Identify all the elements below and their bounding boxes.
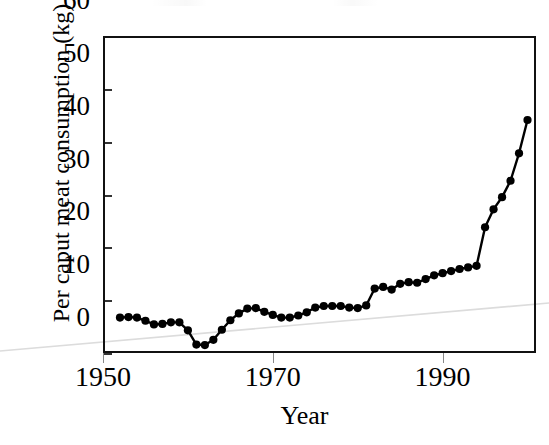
data-point-marker — [294, 311, 302, 319]
data-point-marker — [515, 149, 523, 157]
data-point-marker — [523, 116, 531, 124]
data-point-marker — [175, 318, 183, 326]
data-point-marker — [226, 316, 234, 324]
data-point-marker — [235, 309, 243, 317]
y-tick-label-text: 40 — [63, 92, 90, 120]
data-point-marker — [388, 286, 396, 294]
y-axis-tick-labels: 6050403020100 — [30, 0, 96, 317]
data-point-marker — [506, 177, 514, 185]
x-tick-label: 1950 — [75, 362, 131, 392]
data-point-marker — [371, 284, 379, 292]
y-tick-label-text: 30 — [63, 145, 90, 173]
data-point-marker — [243, 305, 251, 313]
y-axis-title-holder: Per caput meat consumption (kg) — [0, 0, 34, 400]
clipped-title-artifact — [150, 0, 410, 6]
data-point-marker — [150, 320, 158, 328]
data-point-marker — [218, 326, 226, 334]
data-point-marker — [201, 341, 209, 349]
data-point-marker — [430, 271, 438, 279]
y-tick-label-text: 20 — [63, 197, 90, 225]
data-point-marker — [124, 313, 132, 321]
x-axis-title: Year — [221, 401, 329, 430]
x-tick-label: 1970 — [245, 362, 301, 392]
data-point-marker — [116, 314, 124, 322]
data-point-marker — [422, 275, 430, 283]
data-point-marker — [481, 223, 489, 231]
data-point-marker — [472, 262, 480, 270]
data-point-marker — [379, 283, 387, 291]
y-tick-label-text: 0 — [77, 303, 91, 331]
data-point-marker — [337, 302, 345, 310]
data-point-marker — [464, 263, 472, 271]
data-point-marker — [447, 267, 455, 275]
data-point-marker — [455, 265, 463, 273]
series-line — [120, 120, 528, 345]
data-point-marker — [320, 302, 328, 310]
data-point-marker — [133, 314, 141, 322]
data-point-marker — [209, 336, 217, 344]
x-axis-title-holder: Year — [0, 402, 549, 430]
data-point-marker — [405, 278, 413, 286]
data-point-marker — [277, 314, 285, 322]
y-tick-mark — [103, 353, 112, 355]
data-point-marker — [362, 301, 370, 309]
data-point-marker — [286, 314, 294, 322]
y-tick-label-text: 60 — [63, 0, 90, 14]
data-point-marker — [303, 308, 311, 316]
chart-screenshot: Per caput meat consumption (kg) 60504030… — [0, 0, 549, 445]
data-series-layer — [103, 36, 536, 353]
data-point-marker — [345, 303, 353, 311]
data-point-marker — [396, 280, 404, 288]
data-point-marker — [328, 302, 336, 310]
data-point-marker — [252, 304, 260, 312]
y-tick-label-text: 50 — [63, 39, 90, 67]
data-point-marker — [141, 317, 149, 325]
data-point-marker — [184, 326, 192, 334]
data-point-marker — [269, 311, 277, 319]
y-tick-label-text: 10 — [63, 250, 90, 278]
data-point-marker — [498, 193, 506, 201]
data-point-marker — [489, 205, 497, 213]
data-point-marker — [413, 279, 421, 287]
data-point-marker — [439, 269, 447, 277]
data-point-marker — [311, 303, 319, 311]
data-point-marker — [260, 308, 268, 316]
data-point-marker — [354, 304, 362, 312]
data-point-marker — [158, 320, 166, 328]
data-point-marker — [167, 318, 175, 326]
x-tick-label: 1990 — [415, 362, 471, 392]
data-point-marker — [192, 340, 200, 348]
